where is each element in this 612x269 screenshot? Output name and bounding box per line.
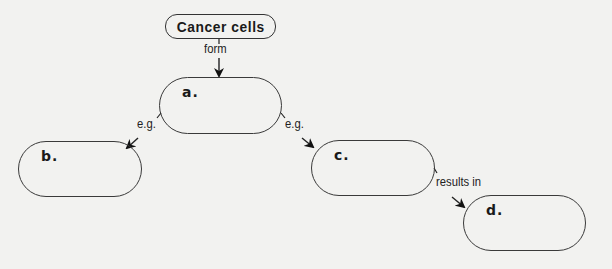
edge-label-form: form [204, 42, 227, 56]
node-c-label: c. [334, 147, 350, 163]
root-node-label: Cancer cells [177, 18, 265, 35]
node-c[interactable]: c. [311, 140, 435, 196]
edge-label-results-in: results in [436, 175, 481, 189]
edge-a-c-arrow [302, 138, 313, 147]
node-a[interactable]: a. [159, 77, 282, 134]
concept-map: Cancer cells form e.g. e.g. results in a… [0, 0, 612, 269]
node-d[interactable]: d. [463, 195, 586, 251]
edge-label-eg-c: e.g. [285, 117, 304, 131]
node-b-label: b. [41, 148, 58, 164]
edge-label-eg-b: e.g. [137, 117, 156, 131]
node-a-label: a. [182, 84, 199, 100]
node-d-label: d. [486, 202, 503, 218]
edge-c-d-arrow [452, 197, 464, 207]
root-node-cancer-cells: Cancer cells [165, 14, 276, 39]
node-b[interactable]: b. [18, 141, 142, 197]
